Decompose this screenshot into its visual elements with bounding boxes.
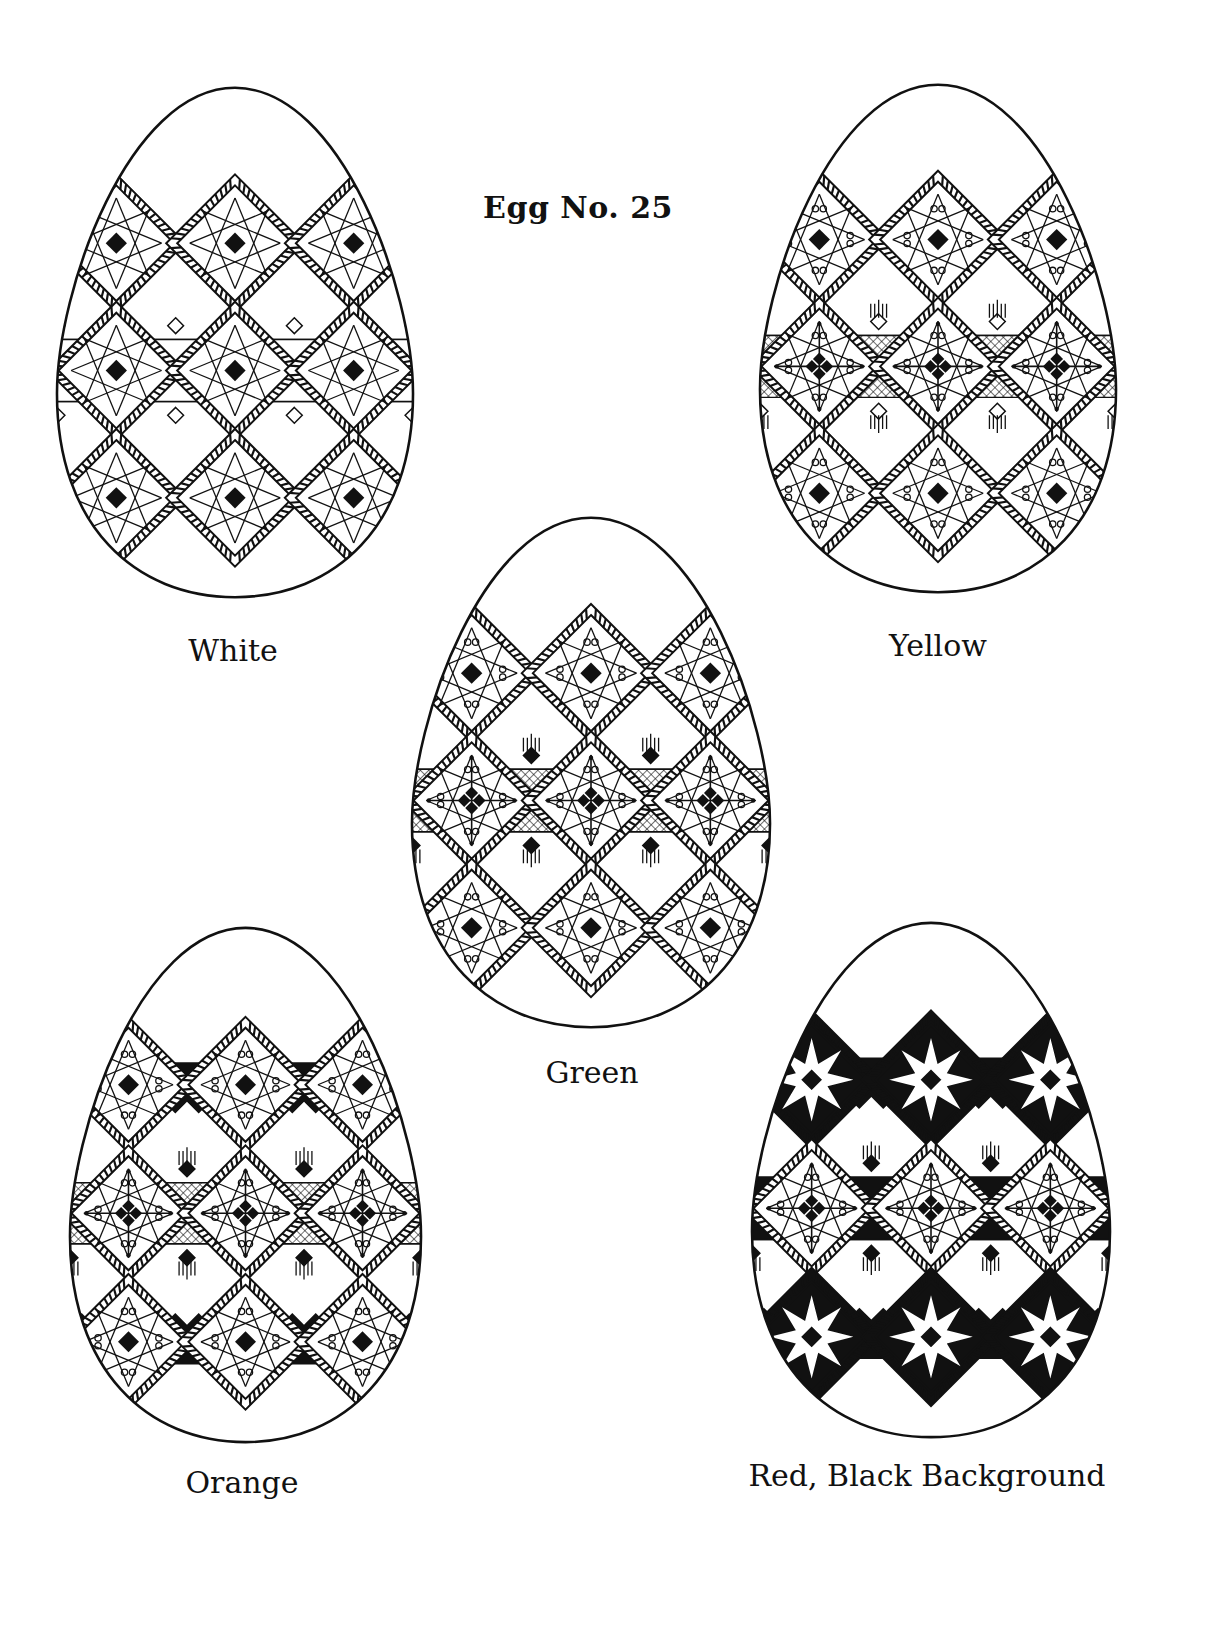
egg-motif-diamond — [166, 174, 304, 312]
page-title-text: Egg No. 25 — [483, 190, 673, 225]
egg-motif-diamond — [47, 302, 185, 440]
egg-motif-diamond — [178, 1017, 314, 1153]
egg-caption-green: Green — [545, 1055, 638, 1090]
egg-motif-diamond — [166, 429, 304, 567]
egg-motif-diamond — [402, 731, 540, 869]
egg-motif-diamond — [178, 1145, 314, 1281]
egg-motif-diamond — [61, 1017, 197, 1153]
egg-motif-diamond — [988, 298, 1126, 436]
egg-motif-diamond — [742, 1010, 880, 1148]
egg-orange-illustration — [68, 925, 423, 1445]
egg-motif-diamond — [641, 731, 779, 869]
egg-motif-diamond — [981, 1139, 1119, 1277]
egg-white-illustration — [55, 85, 415, 600]
egg-motif-diamond — [522, 604, 660, 742]
egg-caption-orange: Orange — [185, 1465, 298, 1500]
egg-motif-diamond — [750, 171, 888, 309]
egg-motif-diamond — [295, 1145, 431, 1281]
egg-motif-diamond — [988, 424, 1126, 562]
egg-white — [55, 85, 415, 600]
egg-motif-diamond — [295, 1274, 431, 1410]
egg-motif-diamond — [402, 859, 540, 997]
egg-motif-diamond — [981, 1268, 1119, 1406]
egg-motif-diamond — [869, 171, 1007, 309]
egg-motif-diamond — [285, 174, 423, 312]
egg-motif-diamond — [178, 1274, 314, 1410]
egg-motif-diamond — [862, 1268, 1000, 1406]
egg-motif-diamond — [522, 731, 660, 869]
egg-orange — [68, 925, 423, 1445]
egg-motif-diamond — [61, 1145, 197, 1281]
egg-motif-diamond — [869, 424, 1007, 562]
egg-motif-diamond — [47, 429, 185, 567]
egg-motif-diamond — [402, 604, 540, 742]
egg-red — [750, 920, 1112, 1440]
egg-motif-diamond — [981, 1010, 1119, 1148]
egg-yellow — [758, 82, 1118, 595]
egg-motif-diamond — [742, 1268, 880, 1406]
egg-motif-diamond — [869, 298, 1007, 436]
egg-red-illustration — [750, 920, 1112, 1440]
egg-caption-white: White — [188, 633, 278, 668]
egg-green-illustration — [410, 515, 772, 1030]
egg-motif-diamond — [750, 298, 888, 436]
egg-motif-diamond — [61, 1274, 197, 1410]
egg-motif-diamond — [285, 302, 423, 440]
egg-motif-diamond — [988, 171, 1126, 309]
egg-motif-diamond — [522, 859, 660, 997]
egg-motif-diamond — [295, 1017, 431, 1153]
egg-motif-diamond — [742, 1139, 880, 1277]
egg-green — [410, 515, 772, 1030]
egg-motif-diamond — [862, 1010, 1000, 1148]
egg-motif-diamond — [166, 302, 304, 440]
egg-caption-yellow: Yellow — [889, 628, 987, 663]
egg-caption-red: Red, Black Background — [748, 1458, 1105, 1493]
egg-yellow-illustration — [758, 82, 1118, 595]
egg-motif-diamond — [285, 429, 423, 567]
egg-motif-diamond — [641, 604, 779, 742]
egg-motif-diamond — [47, 174, 185, 312]
egg-motif-diamond — [862, 1139, 1000, 1277]
